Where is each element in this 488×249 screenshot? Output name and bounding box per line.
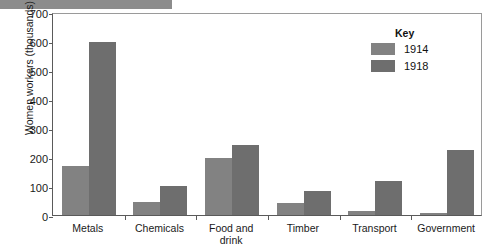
x-axis-tick-mark <box>411 215 412 220</box>
legend-title: Key <box>395 27 471 39</box>
bar-government-1918 <box>447 150 474 215</box>
bar-group <box>268 14 340 215</box>
bar-timber-1914 <box>277 203 304 215</box>
legend-swatch-1918 <box>371 60 395 72</box>
bar-metals-1914 <box>62 166 89 215</box>
legend-label-1918: 1918 <box>404 60 428 72</box>
chart-legend: Key 19141918 <box>371 27 471 77</box>
x-axis-label: Chemicals <box>124 222 196 234</box>
bar-transport-1918 <box>375 181 402 215</box>
x-axis-tick-mark <box>125 215 126 220</box>
bar-transport-1914 <box>348 211 375 215</box>
x-axis-tick-mark <box>268 215 269 220</box>
x-axis-label: Transport <box>339 222 411 234</box>
bar-group <box>196 14 268 215</box>
y-axis-tick-mark <box>49 217 53 218</box>
legend-item-1918: 1918 <box>371 60 471 72</box>
chart-page: Women workers (thousands) 01002003004005… <box>0 0 488 249</box>
bar-group <box>53 14 125 215</box>
x-axis-label: Food anddrink <box>195 222 267 246</box>
x-axis-label: Government <box>410 222 482 234</box>
bar-metals-1918 <box>89 42 116 215</box>
legend-item-1914: 1914 <box>371 43 471 55</box>
legend-entries: 19141918 <box>371 43 471 72</box>
x-axis-label: Timber <box>267 222 339 234</box>
bar-government-1914 <box>420 213 447 215</box>
bar-chemicals-1914 <box>133 202 160 215</box>
x-axis-label: Metals <box>52 222 124 234</box>
bar-food-and-drink-1914 <box>205 158 232 215</box>
x-axis-tick-mark <box>340 215 341 220</box>
bar-timber-1918 <box>304 191 331 215</box>
bar-food-and-drink-1918 <box>232 145 259 215</box>
legend-swatch-1914 <box>371 43 395 55</box>
legend-label-1914: 1914 <box>404 43 428 55</box>
x-axis-tick-mark <box>196 215 197 220</box>
bar-group <box>125 14 197 215</box>
bar-chemicals-1918 <box>160 186 187 215</box>
